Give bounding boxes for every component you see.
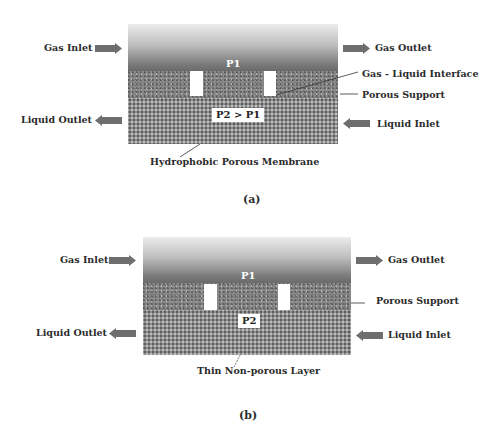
liquid-inlet-label: Liquid Inlet	[388, 330, 451, 340]
pore	[204, 284, 217, 310]
membrane-label: Thin Non-porous Layer	[197, 366, 320, 376]
panel-caption-b: (b)	[239, 410, 257, 421]
arrow-left-icon	[109, 328, 137, 339]
gas-pressure-label: P1	[241, 271, 255, 281]
gas-outlet-label: Gas Outlet	[388, 255, 445, 265]
arrow-right-icon	[109, 255, 137, 266]
gas-inlet-label: Gas Inlet	[60, 255, 108, 265]
porous-support-layer	[143, 283, 351, 310]
liquid-outlet-label: Liquid Outlet	[36, 328, 107, 338]
porous-support-label: Porous Support	[376, 296, 459, 306]
panel-caption-a: (a)	[243, 194, 261, 205]
membrane-label: Hydrophobic Porous Membrane	[150, 157, 319, 167]
arrow-left-icon	[356, 330, 384, 341]
porous-support-label: Porous Support	[362, 90, 445, 100]
pore	[278, 284, 290, 310]
panel-b-diagram: P1 P2	[143, 237, 351, 355]
arrow-right-icon	[356, 255, 384, 266]
liquid-pressure-label: P2	[238, 314, 260, 328]
interface-label: Gas - Liquid Interface	[362, 69, 478, 79]
